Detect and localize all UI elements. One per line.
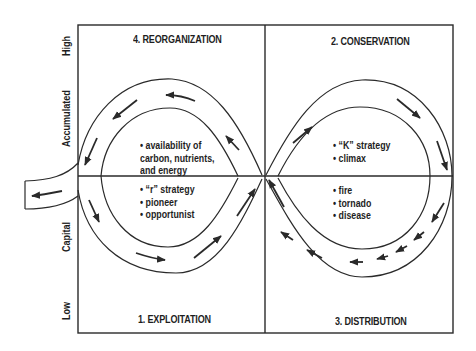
arrow-icon [32, 191, 62, 196]
quadrant-title-reorganization: 4. REORGANIZATION [133, 33, 222, 45]
arrow-icon [293, 127, 312, 143]
note-line: • “K” strategy [333, 139, 391, 152]
right-loop-band [266, 80, 452, 277]
y-axis-label-capital: Capital [60, 222, 72, 252]
exit-tail [25, 163, 78, 209]
note-line: • pioneer [140, 196, 195, 209]
note-line: • availability of [140, 139, 214, 152]
quadrant-title-distribution: 3. DISTRIBUTION [335, 315, 407, 327]
quadrant-title-conservation: 2. CONSERVATION [331, 35, 410, 47]
note-line: and energy [140, 164, 214, 177]
arrow-icon [307, 250, 322, 258]
arrow-icon [281, 232, 293, 240]
reorganization-notes: • availability of carbon, nutrients, and… [140, 139, 214, 177]
quadrant-title-exploitation: 1. EXPLOITATION [138, 313, 211, 325]
arrow-icon [377, 256, 388, 259]
arrow-icon [113, 100, 137, 119]
y-axis-label-accumulated: Accumulated [60, 90, 72, 147]
arrow-icon [432, 203, 444, 222]
note-line: • tornado [333, 197, 371, 210]
arrow-icon [89, 200, 99, 222]
note-line: • “r” strategy [140, 183, 195, 196]
y-axis-label-low: Low [60, 302, 72, 320]
note-line: • opportunist [140, 208, 195, 221]
arrow-icon [226, 136, 239, 150]
arrow-icon [437, 141, 447, 170]
distribution-notes: • fire • tornado • disease [333, 184, 371, 222]
arrow-icon [85, 138, 97, 165]
exploitation-notes: • “r” strategy • pioneer • opportunist [140, 183, 195, 221]
arrow-icon [166, 95, 195, 101]
note-line: • climax [333, 152, 391, 165]
arrow-icon [397, 99, 420, 118]
note-line: • disease [333, 209, 371, 222]
note-line: carbon, nutrients, [140, 152, 214, 165]
arrow-icon [414, 232, 424, 240]
arrow-icon [396, 246, 407, 252]
flow-arrows [32, 95, 447, 262]
y-axis-label-high: High [60, 36, 72, 56]
quadrant-frame [78, 25, 453, 333]
conservation-notes: • “K” strategy • climax [333, 139, 391, 164]
arrow-icon [136, 253, 165, 260]
note-line: • fire [333, 184, 371, 197]
